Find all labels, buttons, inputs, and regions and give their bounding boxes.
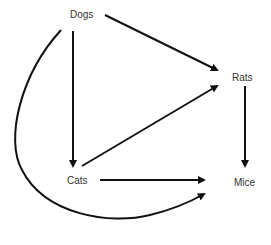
node-rats: Rats: [232, 72, 253, 83]
node-dogs: Dogs: [70, 9, 93, 20]
food-web-diagram: Dogs Rats Cats Mice: [0, 0, 271, 245]
node-cats: Cats: [67, 175, 88, 186]
edge-dogs-to-mice: [15, 30, 204, 219]
node-mice: Mice: [234, 177, 256, 188]
edge-dogs-to-rats: [105, 15, 217, 70]
edge-cats-to-rats: [82, 86, 217, 166]
